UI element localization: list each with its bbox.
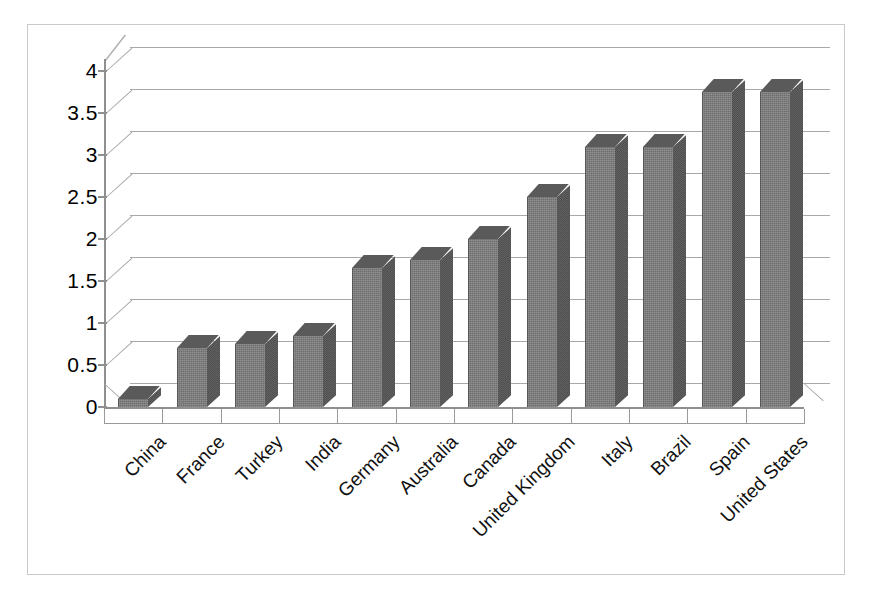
y-axis-tick-label: 1.5 xyxy=(67,269,98,293)
x-axis-tick-mark xyxy=(629,409,630,424)
x-axis-tick-mark xyxy=(571,409,572,424)
bar-side-face xyxy=(440,248,453,407)
x-axis-tick-mark xyxy=(454,409,455,424)
x-axis-category-label: France xyxy=(172,431,229,488)
bar-column[interactable] xyxy=(352,268,382,407)
x-axis-tick-mark xyxy=(512,409,513,424)
bar-front-face xyxy=(468,239,498,407)
y-axis-tick-mark xyxy=(98,196,107,198)
bar-front-face xyxy=(352,268,382,407)
gridline-depth-connector xyxy=(106,299,133,323)
gridline-depth-connector xyxy=(106,257,133,281)
x-axis-tick-mark xyxy=(746,409,747,424)
y-axis-tick-label: 2 xyxy=(86,227,98,251)
bar-front-face xyxy=(585,147,615,407)
bar-front-face xyxy=(643,147,673,407)
bar-side-face xyxy=(615,135,628,407)
y-axis-tick-mark xyxy=(98,70,107,72)
x-axis-category-label: China xyxy=(120,431,171,482)
gridline-depth-connector xyxy=(106,131,133,155)
y-axis-tick-label: 0 xyxy=(86,395,98,419)
bar-column[interactable] xyxy=(585,147,615,407)
x-axis-category-label: Turkey xyxy=(231,431,287,487)
x-axis-category-label: India xyxy=(301,431,346,476)
bar-side-face xyxy=(265,332,278,407)
x-axis-category-labels: ChinaFranceTurkeyIndiaGermanyAustraliaCa… xyxy=(28,423,846,573)
gridline-depth-connector xyxy=(106,173,133,197)
gridline-depth-connector xyxy=(106,89,133,113)
chart-plot-area: 43.532.521.510.50 ChinaFranceTurkeyIndia… xyxy=(28,25,846,576)
bar-side-face xyxy=(323,324,336,407)
bar-front-face xyxy=(760,92,790,407)
x-axis-tick-mark xyxy=(687,409,688,424)
bar-side-face xyxy=(732,80,745,407)
y-axis-tick-label: 3.5 xyxy=(67,101,98,125)
x-axis-tick-mark xyxy=(804,409,805,424)
bar-side-face xyxy=(382,257,395,407)
bar-column[interactable] xyxy=(760,92,790,407)
bar-column[interactable] xyxy=(177,348,207,407)
x-axis-tick-mark xyxy=(337,409,338,424)
gridline-depth-connector xyxy=(106,215,133,239)
bar-front-face xyxy=(410,260,440,407)
y-axis-tick-label: 3 xyxy=(86,143,98,167)
x-axis-tick-mark xyxy=(104,409,105,424)
bar-column[interactable] xyxy=(118,399,148,407)
bar-column[interactable] xyxy=(235,344,265,407)
x-axis-category-label: Brazil xyxy=(647,431,696,480)
x-axis-category-label: Italy xyxy=(597,431,637,471)
floor-right-edge xyxy=(804,383,824,401)
bar-front-face xyxy=(118,399,148,407)
bar-front-face xyxy=(527,197,557,407)
bar-side-face xyxy=(207,336,220,407)
gridline xyxy=(130,47,830,48)
y-axis-tick-mark xyxy=(98,280,107,282)
y-axis-tick-mark xyxy=(98,154,107,156)
y-axis-tick-label: 0.5 xyxy=(67,353,98,377)
bar-column[interactable] xyxy=(468,239,498,407)
gridline-depth-connector xyxy=(106,341,133,365)
bar-front-face xyxy=(235,344,265,407)
gridline-depth-connector xyxy=(106,47,133,71)
bar-side-face xyxy=(557,185,570,407)
bar-front-face xyxy=(293,336,323,407)
x-axis-tick-mark xyxy=(279,409,280,424)
bar-column[interactable] xyxy=(527,197,557,407)
bar-column[interactable] xyxy=(643,147,673,407)
bar-front-face xyxy=(702,92,732,407)
x-axis-tick-mark xyxy=(162,409,163,424)
x-axis-category-label: United Kingdom xyxy=(468,431,579,542)
bar-side-face xyxy=(790,80,803,407)
x-axis-tick-mark xyxy=(221,409,222,424)
x-axis-category-label: Australia xyxy=(395,431,463,499)
bar-column[interactable] xyxy=(702,92,732,407)
y-axis-tick-mark xyxy=(98,406,107,408)
chart-frame: 43.532.521.510.50 ChinaFranceTurkeyIndia… xyxy=(27,24,845,575)
bar-column[interactable] xyxy=(293,336,323,407)
y-axis-tick-label: 2.5 xyxy=(67,185,98,209)
y-axis-tick-mark xyxy=(98,238,107,240)
x-axis-category-label: Spain xyxy=(704,431,754,481)
y-axis-tick-mark xyxy=(98,322,107,324)
y-axis-tick-mark xyxy=(98,112,107,114)
bar-side-face xyxy=(673,135,686,407)
x-axis-category-label: Germany xyxy=(333,431,404,502)
y-axis-tick-label: 1 xyxy=(86,311,98,335)
y-axis-depth-line xyxy=(104,35,126,61)
x-axis-tick-mark xyxy=(396,409,397,424)
bar-side-face xyxy=(498,227,511,407)
bar-front-face xyxy=(177,348,207,407)
y-axis-tick-mark xyxy=(98,364,107,366)
y-axis-tick-label: 4 xyxy=(86,59,98,83)
bar-column[interactable] xyxy=(410,260,440,407)
